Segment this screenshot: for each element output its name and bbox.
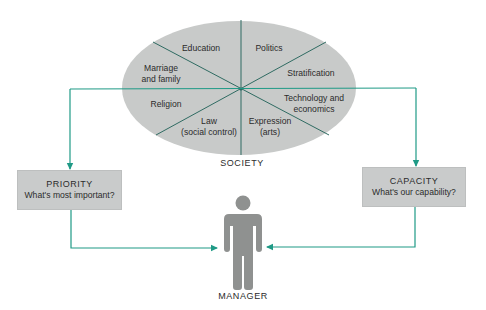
capacity-subtitle: What's our capability? xyxy=(372,187,456,198)
segment-stratification: Stratification xyxy=(287,68,334,79)
segment-marriage-and-family: Marriage and family xyxy=(141,63,180,84)
segment-religion: Religion xyxy=(150,99,181,110)
society-manager-diagram: Education Politics Marriage and family S… xyxy=(0,0,486,310)
segment-education: Education xyxy=(182,43,220,54)
segment-expression: Expression (arts) xyxy=(249,116,292,137)
capacity-box: CAPACITY What's our capability? xyxy=(362,167,466,207)
society-caption: SOCIETY xyxy=(220,158,264,168)
segment-politics: Politics xyxy=(255,43,282,54)
capacity-title: CAPACITY xyxy=(390,176,438,187)
manager-caption: MANAGER xyxy=(218,291,268,301)
priority-box: PRIORITY What's most important? xyxy=(17,170,122,210)
segment-law: Law (social control) xyxy=(181,116,237,137)
segment-technology-and-economics: Technology and economics xyxy=(284,93,344,114)
manager-figure-icon xyxy=(224,196,262,291)
diagram-graphics xyxy=(0,0,486,310)
priority-title: PRIORITY xyxy=(46,179,93,190)
priority-subtitle: What's most important? xyxy=(25,190,115,201)
